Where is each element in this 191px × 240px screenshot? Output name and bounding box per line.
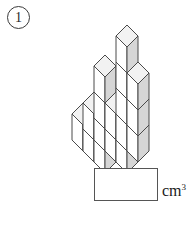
unit-exponent: 3 <box>182 182 187 192</box>
answer-input-box[interactable] <box>94 168 158 201</box>
cube <box>127 62 149 110</box>
unit-text: cm <box>162 182 182 199</box>
unit-label: cm3 <box>162 183 186 199</box>
answer-area: cm3 <box>94 168 186 201</box>
cubes-group <box>72 25 149 173</box>
